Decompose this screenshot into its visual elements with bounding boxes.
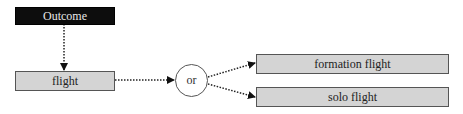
outcome-node: Outcome — [15, 7, 115, 25]
solo-flight-label: solo flight — [328, 90, 377, 105]
or-label: or — [187, 73, 197, 88]
flight-label: flight — [52, 74, 78, 89]
solo-flight-node: solo flight — [256, 87, 449, 107]
edge-or-to-formation-flight — [208, 63, 255, 77]
or-node: or — [175, 64, 208, 97]
formation-flight-node: formation flight — [256, 54, 449, 74]
formation-flight-label: formation flight — [314, 57, 390, 72]
edge-or-to-solo-flight — [208, 84, 255, 97]
outcome-label: Outcome — [43, 9, 87, 24]
flight-node: flight — [15, 71, 115, 91]
